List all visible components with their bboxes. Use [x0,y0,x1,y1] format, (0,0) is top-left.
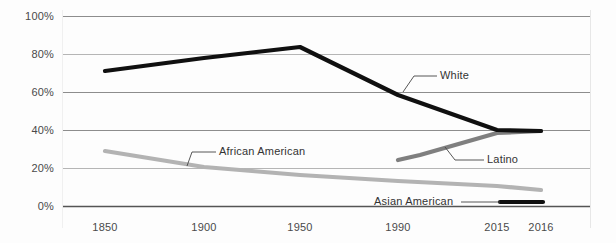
series-line-african-american [105,151,541,190]
ytick-label-80: 80% [8,48,54,60]
xtick-label-1850: 1850 [75,221,135,233]
leader-line-latino [445,147,484,160]
xtick-label-2016: 2016 [511,221,571,233]
xtick-label-1950: 1950 [270,221,330,233]
ytick-label-100: 100% [8,10,54,22]
series-label-asian-american: Asian American [374,195,453,207]
ytick-label-0: 0% [8,200,54,212]
series-line-latino [398,131,541,160]
xtick-label-1990: 1990 [368,221,428,233]
xtick-label-1900: 1900 [174,221,234,233]
series-label-latino: Latino [487,153,518,165]
ytick-label-60: 60% [8,86,54,98]
series-line-white [105,47,541,131]
series-label-white: White [440,69,469,81]
chart-container: 100% 80% 60% 40% 20% 0% 1850 1900 1950 1… [0,0,616,243]
leader-line-white [403,76,437,92]
series-label-african-american: African American [219,145,305,157]
ytick-label-20: 20% [8,162,54,174]
line-chart-plot [0,0,616,243]
ytick-label-40: 40% [8,124,54,136]
